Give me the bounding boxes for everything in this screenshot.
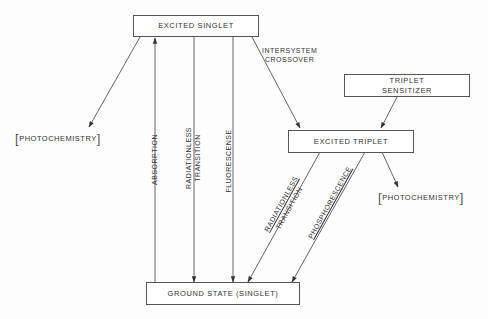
ground-state-label: GROUND STATE (SINGLET) — [168, 289, 279, 299]
bracket-close: ] — [97, 132, 101, 145]
arrow-triplet-to-photochemistry — [382, 152, 398, 187]
excited-triplet-label: EXCITED TRIPLET — [314, 137, 388, 147]
arrow-phosphorescence — [292, 152, 365, 282]
intersystem-crossover-label: INTERSYSTEM CROSSOVER — [262, 46, 317, 64]
excited-singlet-label: EXCITED SINGLET — [158, 21, 234, 31]
radiationless-singlet-label: RADIATIONLESS TRANSITION — [184, 123, 202, 193]
photochemistry-right: [ PHOTOCHEMISTRY ] — [378, 189, 464, 205]
arrow-sensitizer-to-triplet — [381, 97, 397, 128]
bracket-close: ] — [460, 191, 464, 204]
jablonski-diagram: EXCITED SINGLET TRIPLET SENSITIZER EXCIT… — [0, 0, 488, 319]
photochemistry-left: [ PHOTOCHEMISTRY ] — [15, 130, 101, 146]
intersystem-line2: CROSSOVER — [262, 55, 317, 64]
excited-singlet-box: EXCITED SINGLET — [133, 15, 259, 37]
photochemistry-left-label: PHOTOCHEMISTRY — [19, 134, 97, 143]
fluorescence-label: FLUORESCENSE — [224, 133, 233, 193]
intersystem-line1: INTERSYSTEM — [262, 46, 317, 55]
absorption-label: ABSORPTION — [150, 130, 159, 190]
triplet-sensitizer-box: TRIPLET SENSITIZER — [344, 74, 470, 97]
ground-state-box: GROUND STATE (SINGLET) — [146, 282, 300, 305]
triplet-sensitizer-label-line1: TRIPLET — [389, 76, 424, 86]
connector-lines — [0, 0, 488, 319]
arrow-singlet-to-photochemistry — [89, 37, 140, 127]
photochemistry-right-label: PHOTOCHEMISTRY — [382, 193, 460, 202]
triplet-sensitizer-label-line2: SENSITIZER — [382, 86, 432, 96]
excited-triplet-box: EXCITED TRIPLET — [288, 130, 414, 153]
